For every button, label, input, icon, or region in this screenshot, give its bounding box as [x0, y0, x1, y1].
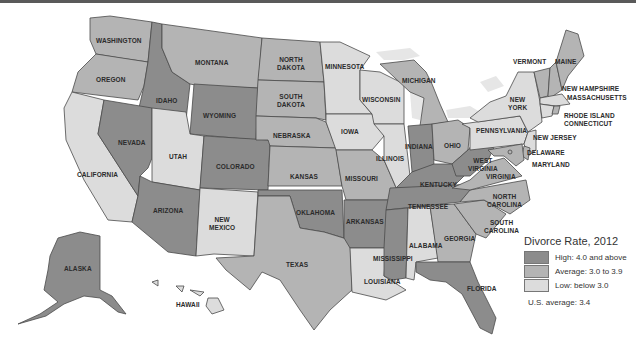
legend-swatch-low	[524, 279, 549, 292]
legend: Divorce Rate, 2012 High: 4.0 and above A…	[524, 235, 627, 307]
label-west-virginia: WESTVIRGINIA	[468, 157, 498, 172]
label-kansas: KANSAS	[290, 173, 318, 181]
state-hawaii[interactable]	[152, 280, 224, 314]
legend-item-high: High: 4.0 and above	[524, 250, 627, 264]
label-north-dakota-line1: NORTH	[279, 56, 303, 63]
legend-item-low: Low: below 3.0	[524, 278, 627, 292]
label-virginia: VIRGINIA	[486, 173, 516, 181]
label-new-mexico-line1: NEW	[214, 216, 229, 223]
state-florida[interactable]	[416, 262, 496, 334]
label-alaska: ALASKA	[64, 265, 92, 273]
label-new-mexico: NEWMEXICO	[209, 216, 235, 231]
label-mississippi: MISSISSIPPI	[373, 255, 413, 263]
label-oregon: OREGON	[96, 76, 126, 84]
label-tennessee: TENNESSEE	[408, 203, 448, 211]
label-vermont: VERMONT	[513, 58, 546, 66]
label-texas: TEXAS	[286, 261, 308, 269]
label-wisconsin: WISCONSIN	[362, 96, 400, 104]
label-illinois: ILLINOIS	[376, 155, 404, 163]
label-north-carolina-line2: CAROLINA	[487, 201, 522, 208]
label-oklahoma: OKLAHOMA	[296, 209, 335, 217]
label-utah: UTAH	[169, 153, 187, 161]
label-rhode-island: RHODE ISLAND	[564, 112, 615, 120]
label-alabama: ALABAMA	[409, 242, 443, 250]
label-south-carolina-line1: SOUTH	[490, 219, 513, 226]
legend-label-low: Low: below 3.0	[555, 281, 608, 290]
label-north-dakota: NORTHDAKOTA	[277, 56, 305, 71]
label-new-york-line1: NEW	[510, 96, 525, 103]
label-north-carolina-line1: NORTH	[493, 193, 517, 200]
state-dc[interactable]	[508, 150, 512, 154]
label-south-carolina-line2: CAROLINA	[484, 227, 519, 234]
label-georgia: GEORGIA	[444, 235, 475, 243]
label-south-dakota-line1: SOUTH	[279, 93, 302, 100]
label-michigan: MICHIGAN	[402, 77, 436, 85]
label-maryland: MARYLAND	[532, 161, 570, 169]
label-new-mexico-line2: MEXICO	[209, 224, 235, 231]
label-north-carolina: NORTHCAROLINA	[487, 193, 522, 208]
label-kentucky: KENTUCKY	[420, 181, 457, 189]
label-florida: FLORIDA	[467, 285, 497, 293]
label-hawaii: HAWAII	[176, 301, 200, 309]
label-south-dakota-line2: DAKOTA	[277, 101, 305, 108]
label-pennsylvania: PENNSYLVANIA	[476, 127, 527, 135]
label-washington: WASHINGTON	[96, 37, 142, 45]
label-ohio: OHIO	[444, 142, 461, 150]
label-missouri: MISSOURI	[345, 175, 378, 183]
state-connecticut[interactable]	[540, 104, 554, 118]
legend-swatch-high	[524, 251, 549, 264]
label-arizona: ARIZONA	[153, 207, 183, 215]
label-nevada: NEVADA	[118, 139, 146, 147]
label-iowa: IOWA	[341, 128, 359, 136]
label-delaware: DELAWARE	[527, 149, 565, 157]
label-nebraska: NEBRASKA	[273, 132, 311, 140]
label-indiana: INDIANA	[405, 143, 433, 151]
state-alaska[interactable]	[18, 232, 126, 324]
legend-item-average: Average: 3.0 to 3.9	[524, 264, 627, 278]
label-north-dakota-line2: DAKOTA	[277, 64, 305, 71]
label-montana: MONTANA	[195, 59, 228, 67]
label-new-york: NEWYORK	[508, 96, 527, 111]
state-arizona[interactable]	[132, 176, 200, 256]
label-massachusetts: MASSACHUSETTS	[567, 94, 627, 102]
legend-swatch-average	[524, 265, 549, 278]
label-connecticut: CONNECTICUT	[564, 120, 612, 128]
label-west-virginia-line2: VIRGINIA	[468, 165, 498, 172]
label-west-virginia-line1: WEST	[473, 157, 492, 164]
label-new-york-line2: YORK	[508, 104, 527, 111]
legend-label-average: Average: 3.0 to 3.9	[555, 267, 622, 276]
us-average-note: U.S. average: 3.4	[528, 298, 627, 307]
label-california: CALIFORNIA	[77, 171, 118, 179]
label-wyoming: WYOMING	[203, 112, 236, 120]
label-colorado: COLORADO	[216, 163, 255, 171]
label-maine: MAINE	[555, 58, 576, 66]
label-new-jersey: NEW JERSEY	[533, 134, 577, 142]
label-new-hampshire: NEW HAMPSHIRE	[562, 85, 619, 93]
label-idaho: IDAHO	[156, 97, 177, 105]
label-louisiana: LOUISIANA	[364, 278, 401, 286]
legend-label-high: High: 4.0 and above	[555, 253, 627, 262]
legend-title: Divorce Rate, 2012	[524, 235, 627, 247]
label-south-dakota: SOUTHDAKOTA	[277, 93, 305, 108]
label-minnesota: MINNESOTA	[325, 63, 364, 71]
state-mississippi[interactable]	[384, 208, 408, 280]
label-arkansas: ARKANSAS	[346, 218, 384, 226]
label-south-carolina: SOUTHCAROLINA	[484, 219, 519, 234]
